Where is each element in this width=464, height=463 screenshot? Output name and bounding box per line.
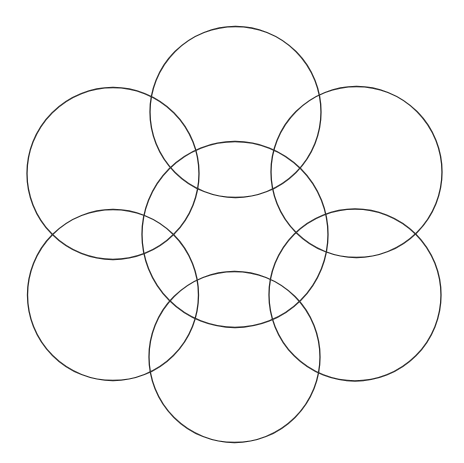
circle-center	[142, 142, 328, 328]
circles-diagram	[0, 0, 464, 463]
circle-bottom	[149, 272, 320, 443]
diagram-canvas	[0, 0, 464, 463]
